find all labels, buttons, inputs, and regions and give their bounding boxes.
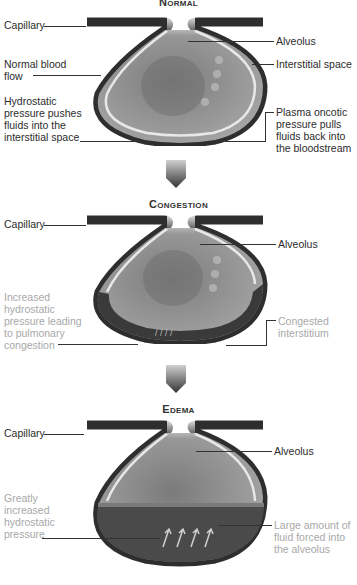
label-large-amount-of-fluid: Large amount of fluid forced into the al… xyxy=(274,519,356,555)
alveolus-normal-illustration xyxy=(85,14,270,146)
label-capillary: Capillary xyxy=(4,218,45,230)
leader-line xyxy=(196,451,272,452)
leader-line xyxy=(44,26,86,27)
label-alveolus: Alveolus xyxy=(276,35,316,47)
leader-line xyxy=(266,320,276,321)
label-capillary: Capillary xyxy=(4,427,45,439)
label-plasma-oncotic-pressure: Plasma oncotic pressure pulls fluids bac… xyxy=(276,106,356,154)
panel-normal: Normal Capillary Normal blood flow Hydro… xyxy=(0,0,357,160)
label-capillary: Capillary xyxy=(4,19,45,31)
label-congested-interstitium: Congested interstitium xyxy=(278,315,353,339)
leader-line xyxy=(42,538,160,539)
alveolus-congestion-illustration: / / / / xyxy=(85,212,270,344)
leader-line xyxy=(225,141,265,142)
panel-title: Edema xyxy=(0,403,357,415)
leader-line xyxy=(80,141,140,142)
label-alveolus: Alveolus xyxy=(274,445,314,457)
leader-line xyxy=(266,320,267,346)
panel-congestion: Congestion / / / / Capillary Increased h… xyxy=(0,198,357,358)
leader-line xyxy=(188,41,274,42)
down-arrow-icon xyxy=(164,160,188,188)
label-increased-hydrostatic-pressure: Increased hydrostatic pressure leading t… xyxy=(4,291,86,351)
leader-line xyxy=(226,345,266,346)
down-arrow-icon xyxy=(164,365,188,393)
panel-title: Congestion xyxy=(0,198,357,210)
label-alveolus: Alveolus xyxy=(278,238,318,250)
leader-line xyxy=(33,75,101,76)
label-normal-blood-flow: Normal blood flow xyxy=(4,58,74,82)
leader-line xyxy=(44,434,84,435)
panel-edema: Edema Capillary Greatly increased hydros… xyxy=(0,403,357,585)
label-interstitial-space: Interstitial space xyxy=(276,58,352,70)
panel-title: Normal xyxy=(0,0,357,8)
leader-line xyxy=(265,112,266,142)
leader-line xyxy=(265,112,274,113)
leader-line xyxy=(218,525,272,526)
alveolus-edema-illustration xyxy=(85,417,270,567)
leader-line xyxy=(44,225,86,226)
leader-line xyxy=(58,344,138,345)
svg-text:/ / / /: / / / / xyxy=(155,328,173,338)
leader-line xyxy=(252,64,274,65)
leader-line xyxy=(200,244,276,245)
label-hydrostatic-pressure: Hydrostatic pressure pushes fluids into … xyxy=(4,95,84,143)
label-greatly-increased-hydrostatic-pressure: Greatly increased hydrostatic pressure xyxy=(4,492,79,540)
